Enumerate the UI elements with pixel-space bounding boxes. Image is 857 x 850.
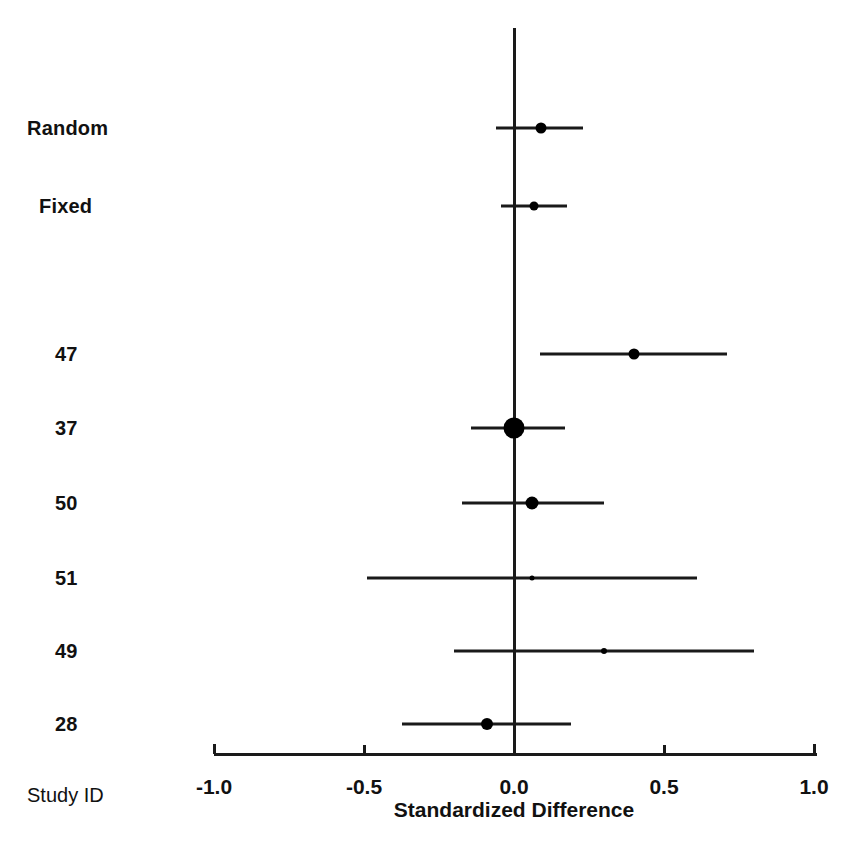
x-tick-label--1.0: -1.0 <box>196 775 232 799</box>
x-tick-label-0.0: 0.0 <box>499 775 528 799</box>
row-label-study-28: 28 <box>55 713 78 736</box>
effect-estimate-marker <box>530 576 535 581</box>
row-label-random: Random <box>27 117 108 140</box>
x-axis-tick <box>813 744 816 754</box>
zero-reference-line <box>513 28 516 753</box>
forest-plot: Random Fixed 47 37 50 51 49 28 Study ID … <box>0 0 857 850</box>
row-label-study-51: 51 <box>55 567 78 590</box>
effect-estimate-marker <box>529 202 538 211</box>
x-tick-label-1.0: 1.0 <box>799 775 828 799</box>
effect-estimate-marker <box>526 497 539 510</box>
effect-estimate-marker <box>536 123 547 134</box>
x-axis-tick <box>663 745 666 754</box>
x-axis-title: Standardized Difference <box>394 798 634 822</box>
x-axis-tick <box>513 745 516 754</box>
row-label-study-49: 49 <box>55 640 78 663</box>
effect-estimate-marker <box>481 718 493 730</box>
x-axis-tick <box>363 745 366 754</box>
x-tick-label-0.5: 0.5 <box>649 775 678 799</box>
x-axis-tick <box>213 744 216 754</box>
row-label-fixed: Fixed <box>39 195 92 218</box>
row-label-study-37: 37 <box>55 417 78 440</box>
effect-estimate-marker <box>601 648 607 654</box>
effect-estimate-marker <box>629 349 640 360</box>
row-label-study-47: 47 <box>55 343 78 366</box>
effect-estimate-marker <box>504 418 525 439</box>
y-axis-title: Study ID <box>27 784 104 807</box>
x-tick-label--0.5: -0.5 <box>346 775 382 799</box>
row-label-study-50: 50 <box>55 492 78 515</box>
